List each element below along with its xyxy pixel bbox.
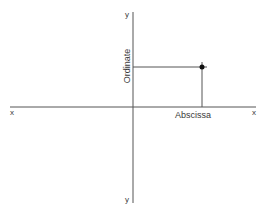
- abscissa-label: Abscissa: [175, 110, 211, 120]
- coordinate-diagram: x x y y Abscissa Ordinate: [0, 0, 267, 215]
- x-axis-right-label: x: [252, 108, 256, 117]
- plotted-point: [200, 65, 205, 70]
- y-axis-bottom-label: y: [125, 195, 129, 204]
- ordinate-label: Ordinate: [122, 49, 132, 84]
- y-axis-top-label: y: [125, 10, 129, 19]
- x-axis-left-label: x: [10, 108, 14, 117]
